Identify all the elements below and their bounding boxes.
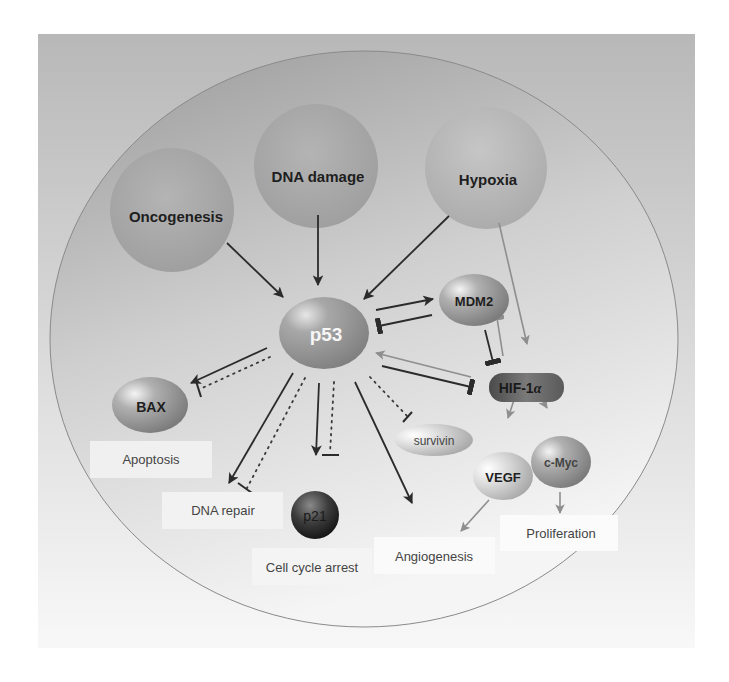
node-label: BAX xyxy=(136,399,166,415)
node-mdm2: MDM2 xyxy=(439,274,509,326)
stimulus-label: Oncogenesis xyxy=(129,208,223,225)
pathway-diagram: Oncogenesis DNA damage Hypoxia xyxy=(0,0,729,682)
node-label: HIF-1α xyxy=(499,380,542,396)
node-vegf: VEGF xyxy=(473,452,533,500)
outcome-label: Cell cycle arrest xyxy=(266,560,359,575)
outcome-label: DNA repair xyxy=(191,503,255,518)
outcome-label: Angiogenesis xyxy=(395,549,474,564)
outcome-label: Proliferation xyxy=(526,526,595,541)
node-cmyc: c-Myc xyxy=(531,436,591,488)
outcome-dna-repair: DNA repair xyxy=(162,492,283,529)
outcome-label: Apoptosis xyxy=(122,452,180,467)
stimulus-hypoxia: Hypoxia xyxy=(425,107,547,229)
node-label: MDM2 xyxy=(455,294,493,309)
stimulus-oncogenesis: Oncogenesis xyxy=(110,148,234,272)
node-hif1a: HIF-1α xyxy=(489,373,564,402)
node-label: c-Myc xyxy=(544,456,578,470)
node-label: p21 xyxy=(303,508,327,524)
outcome-angiogenesis: Angiogenesis xyxy=(374,537,495,574)
stimulus-label: Hypoxia xyxy=(459,171,518,188)
node-survivin: survivin xyxy=(395,424,473,456)
node-p21: p21 xyxy=(291,491,339,539)
stimulus-dna-damage: DNA damage xyxy=(254,104,378,228)
node-label: VEGF xyxy=(485,470,520,485)
outcome-proliferation: Proliferation xyxy=(500,515,618,551)
outcome-apoptosis: Apoptosis xyxy=(90,441,212,478)
stimulus-label: DNA damage xyxy=(272,168,365,185)
outcome-cell-cycle-arrest: Cell cycle arrest xyxy=(252,548,372,585)
node-p53: p53 xyxy=(279,297,369,369)
node-label: survivin xyxy=(414,434,455,448)
node-bax: BAX xyxy=(112,377,188,433)
node-label: p53 xyxy=(310,324,343,345)
